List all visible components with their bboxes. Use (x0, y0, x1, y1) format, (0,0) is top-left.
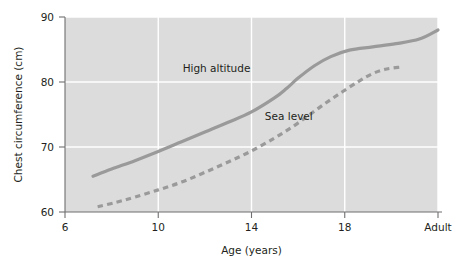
y-tick-label: 70 (41, 141, 54, 153)
chest-circumference-line-chart: 6101418Adult 60708090 High altitudeSea l… (0, 0, 469, 266)
x-axis-tick-labels: 6101418Adult (62, 221, 452, 233)
x-tick-label: Adult (424, 221, 451, 233)
x-tick-label: 14 (245, 221, 259, 233)
y-tick-label: 80 (41, 76, 54, 88)
y-axis-tick-labels: 60708090 (41, 11, 54, 218)
y-tick-label: 90 (41, 11, 54, 23)
x-tick-label: 10 (152, 221, 165, 233)
x-tick-label: 18 (338, 221, 351, 233)
x-tick-label: 6 (62, 221, 69, 233)
series-label-high-altitude: High altitude (183, 62, 251, 74)
y-axis-title: Chest circumference (cm) (12, 47, 24, 183)
series-label-sea-level: Sea level (265, 110, 313, 122)
chart-container: 6101418Adult 60708090 High altitudeSea l… (0, 0, 469, 266)
y-tick-label: 60 (41, 206, 54, 218)
x-axis-title: Age (years) (221, 244, 282, 256)
